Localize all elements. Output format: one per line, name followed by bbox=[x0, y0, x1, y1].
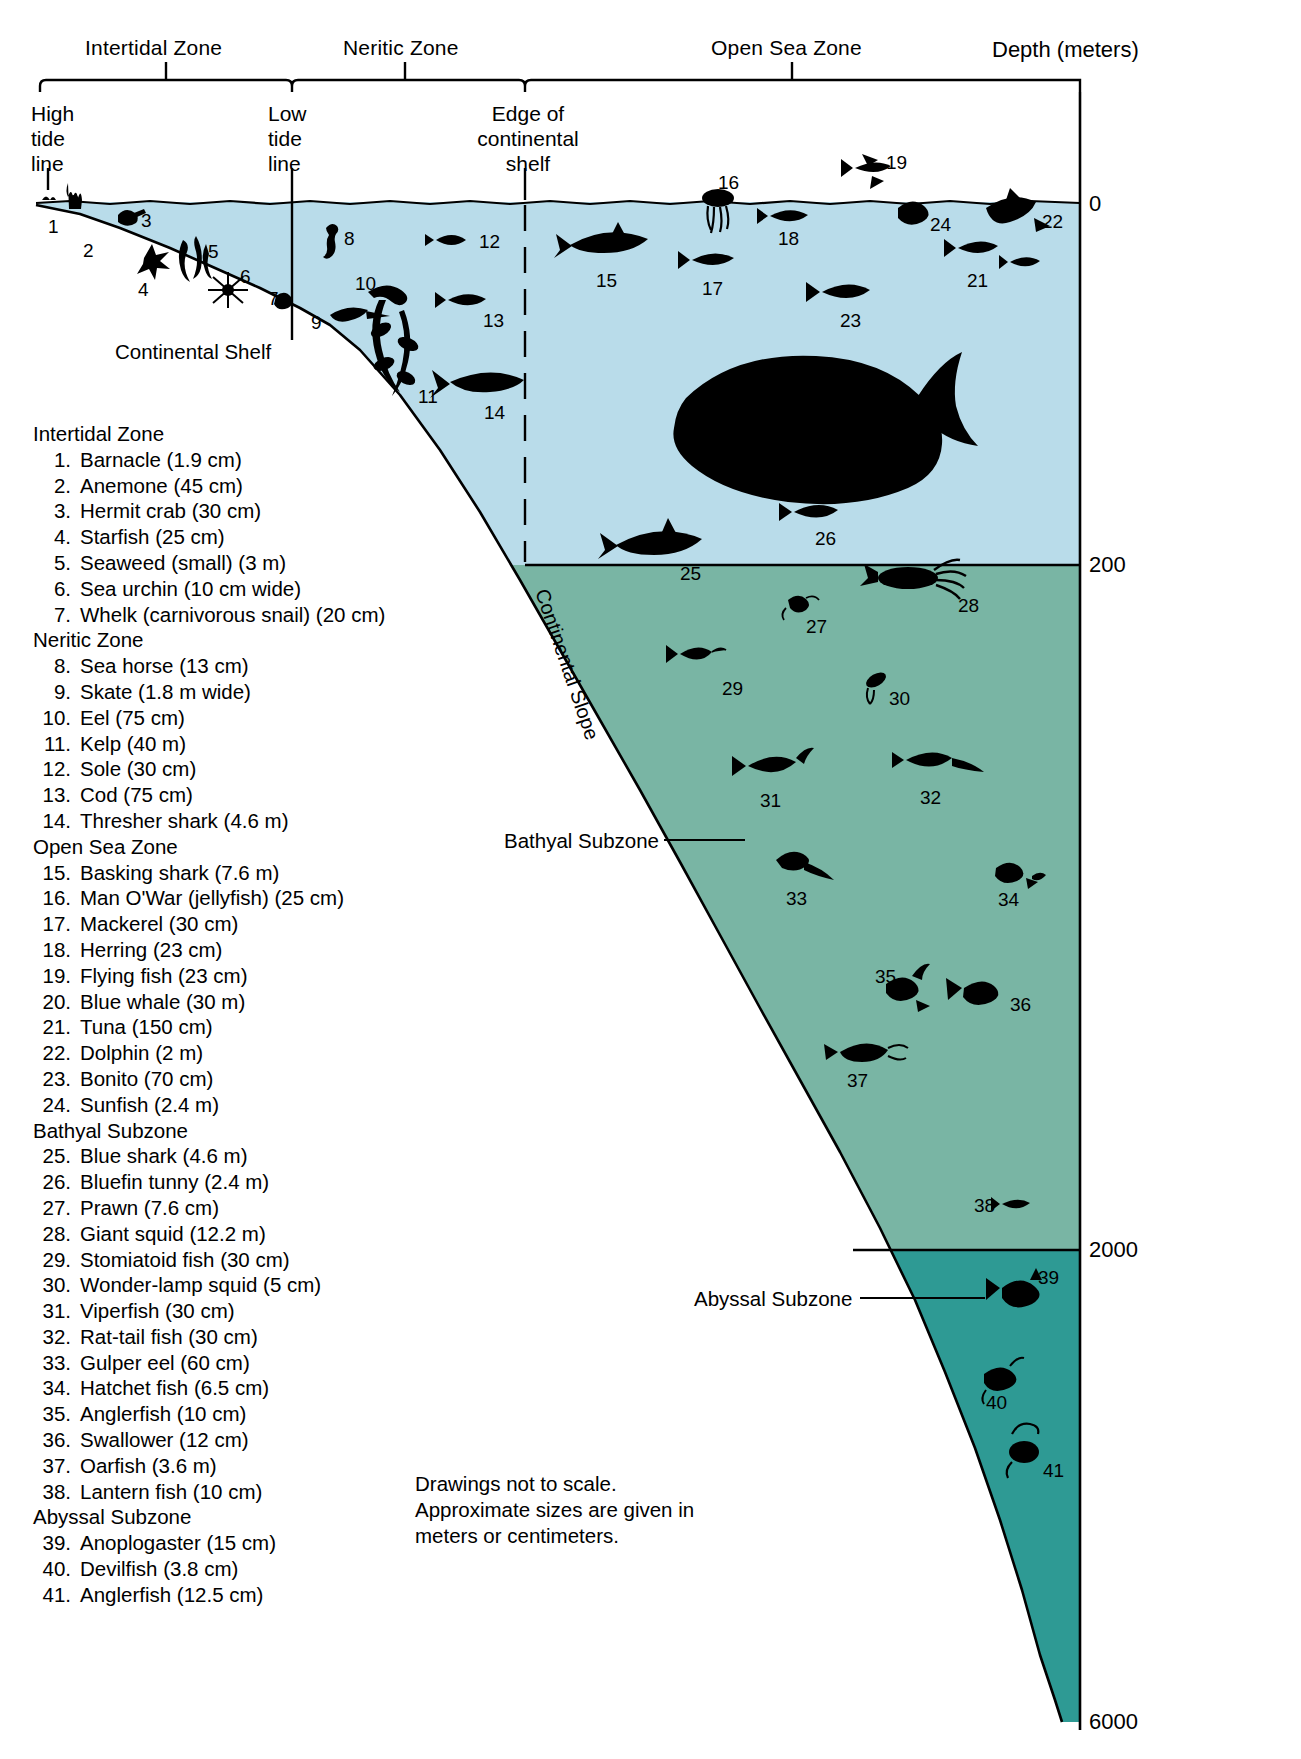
legend-item-label: Mackerel (30 cm) bbox=[80, 911, 238, 937]
legend-item-number: 27. bbox=[33, 1195, 80, 1221]
legend-item-label: Skate (1.8 m wide) bbox=[80, 679, 251, 705]
legend-item-number: 14. bbox=[33, 808, 80, 834]
legend-item: 18.Herring (23 cm) bbox=[33, 937, 385, 963]
legend-item-label: Basking shark (7.6 m) bbox=[80, 860, 279, 886]
legend-item-label: Bonito (70 cm) bbox=[80, 1066, 213, 1092]
callout-15: 15 bbox=[596, 270, 617, 292]
legend-item: 22.Dolphin (2 m) bbox=[33, 1040, 385, 1066]
legend-item-label: Hermit crab (30 cm) bbox=[80, 498, 261, 524]
legend-item: 33.Gulper eel (60 cm) bbox=[33, 1350, 385, 1376]
legend-item-number: 9. bbox=[33, 679, 80, 705]
callout-41: 41 bbox=[1043, 1460, 1064, 1482]
legend-item-number: 32. bbox=[33, 1324, 80, 1350]
callout-3: 3 bbox=[141, 210, 152, 232]
legend-item: 23.Bonito (70 cm) bbox=[33, 1066, 385, 1092]
legend-item-label: Rat-tail fish (30 cm) bbox=[80, 1324, 258, 1350]
label-abyssal-subzone: Abyssal Subzone bbox=[694, 1287, 852, 1311]
legend-item-number: 4. bbox=[33, 524, 80, 550]
legend-item: 39.Anoplogaster (15 cm) bbox=[33, 1530, 385, 1556]
footnote-line-2: Approximate sizes are given in bbox=[415, 1497, 694, 1523]
depth-tick-2000: 2000 bbox=[1089, 1237, 1138, 1263]
depth-tick-200: 200 bbox=[1089, 552, 1126, 578]
legend-item: 24.Sunfish (2.4 m) bbox=[33, 1092, 385, 1118]
callout-12: 12 bbox=[479, 231, 500, 253]
legend-item-label: Sole (30 cm) bbox=[80, 756, 196, 782]
callout-40: 40 bbox=[986, 1392, 1007, 1414]
legend-item: 12.Sole (30 cm) bbox=[33, 756, 385, 782]
legend-item-number: 28. bbox=[33, 1221, 80, 1247]
footnote-line-1: Drawings not to scale. bbox=[415, 1471, 694, 1497]
legend-item-label: Seaweed (small) (3 m) bbox=[80, 550, 286, 576]
scale-footnote: Drawings not to scale. Approximate sizes… bbox=[415, 1471, 694, 1549]
legend-item-label: Flying fish (23 cm) bbox=[80, 963, 247, 989]
legend-item: 1.Barnacle (1.9 cm) bbox=[33, 447, 385, 473]
legend-item-label: Sunfish (2.4 m) bbox=[80, 1092, 219, 1118]
legend-item-number: 33. bbox=[33, 1350, 80, 1376]
callout-21: 21 bbox=[967, 270, 988, 292]
legend-item: 31.Viperfish (30 cm) bbox=[33, 1298, 385, 1324]
legend-item-label: Starfish (25 cm) bbox=[80, 524, 225, 550]
legend-item-label: Lantern fish (10 cm) bbox=[80, 1479, 262, 1505]
legend-item-label: Devilfish (3.8 cm) bbox=[80, 1556, 238, 1582]
callout-26: 26 bbox=[815, 528, 836, 550]
legend-item-label: Dolphin (2 m) bbox=[80, 1040, 203, 1066]
legend-item-label: Blue whale (30 m) bbox=[80, 989, 245, 1015]
callout-28: 28 bbox=[958, 595, 979, 617]
legend-item-number: 38. bbox=[33, 1479, 80, 1505]
legend-item: 9.Skate (1.8 m wide) bbox=[33, 679, 385, 705]
legend-item: 5.Seaweed (small) (3 m) bbox=[33, 550, 385, 576]
legend-item-number: 37. bbox=[33, 1453, 80, 1479]
legend-item: 38.Lantern fish (10 cm) bbox=[33, 1479, 385, 1505]
callout-30: 30 bbox=[889, 688, 910, 710]
legend-item-number: 15. bbox=[33, 860, 80, 886]
legend-item-label: Sea horse (13 cm) bbox=[80, 653, 249, 679]
legend-item: 26.Bluefin tunny (2.4 m) bbox=[33, 1169, 385, 1195]
callout-14: 14 bbox=[484, 402, 505, 424]
group-bathyal-heading: Bathyal Subzone bbox=[33, 1118, 385, 1144]
callout-23: 23 bbox=[840, 310, 861, 332]
callout-18: 18 bbox=[778, 228, 799, 250]
legend-item-number: 3. bbox=[33, 498, 80, 524]
legend-item: 34.Hatchet fish (6.5 cm) bbox=[33, 1375, 385, 1401]
legend-item-label: Prawn (7.6 cm) bbox=[80, 1195, 219, 1221]
legend-item: 2.Anemone (45 cm) bbox=[33, 473, 385, 499]
group-opensea-heading: Open Sea Zone bbox=[33, 834, 385, 860]
legend-item-label: Blue shark (4.6 m) bbox=[80, 1143, 247, 1169]
legend-item-number: 35. bbox=[33, 1401, 80, 1427]
callout-16: 16 bbox=[718, 172, 739, 194]
legend-item-label: Herring (23 cm) bbox=[80, 937, 222, 963]
species-legend: Intertidal Zone1.Barnacle (1.9 cm)2.Anem… bbox=[33, 421, 385, 1608]
legend-item-number: 5. bbox=[33, 550, 80, 576]
callout-36: 36 bbox=[1010, 994, 1031, 1016]
callout-22: 22 bbox=[1042, 211, 1063, 233]
legend-item: 40.Devilfish (3.8 cm) bbox=[33, 1556, 385, 1582]
legend-item-number: 16. bbox=[33, 885, 80, 911]
legend-item-label: Sea urchin (10 cm wide) bbox=[80, 576, 301, 602]
legend-item-number: 2. bbox=[33, 473, 80, 499]
legend-item-label: Gulper eel (60 cm) bbox=[80, 1350, 250, 1376]
legend-item-number: 26. bbox=[33, 1169, 80, 1195]
legend-item-number: 41. bbox=[33, 1582, 80, 1608]
legend-item: 11.Kelp (40 m) bbox=[33, 731, 385, 757]
legend-item-number: 23. bbox=[33, 1066, 80, 1092]
footnote-line-3: meters or centimeters. bbox=[415, 1523, 694, 1549]
callout-35: 35 bbox=[875, 966, 896, 988]
legend-item: 27.Prawn (7.6 cm) bbox=[33, 1195, 385, 1221]
label-continental-shelf: Continental Shelf bbox=[115, 340, 271, 364]
legend-item-number: 31. bbox=[33, 1298, 80, 1324]
legend-item: 7.Whelk (carnivorous snail) (20 cm) bbox=[33, 602, 385, 628]
callout-29: 29 bbox=[722, 678, 743, 700]
legend-item-label: Anoplogaster (15 cm) bbox=[80, 1530, 276, 1556]
legend-item: 21.Tuna (150 cm) bbox=[33, 1014, 385, 1040]
legend-item-label: Kelp (40 m) bbox=[80, 731, 186, 757]
legend-item-label: Man O'War (jellyfish) (25 cm) bbox=[80, 885, 344, 911]
callout-9: 9 bbox=[311, 312, 322, 334]
legend-item-number: 13. bbox=[33, 782, 80, 808]
callout-33: 33 bbox=[786, 888, 807, 910]
legend-item-label: Wonder-lamp squid (5 cm) bbox=[80, 1272, 321, 1298]
callout-20: 20 bbox=[849, 422, 870, 444]
legend-item-number: 1. bbox=[33, 447, 80, 473]
legend-item: 29.Stomiatoid fish (30 cm) bbox=[33, 1247, 385, 1273]
legend-item-label: Bluefin tunny (2.4 m) bbox=[80, 1169, 269, 1195]
legend-item: 15.Basking shark (7.6 m) bbox=[33, 860, 385, 886]
